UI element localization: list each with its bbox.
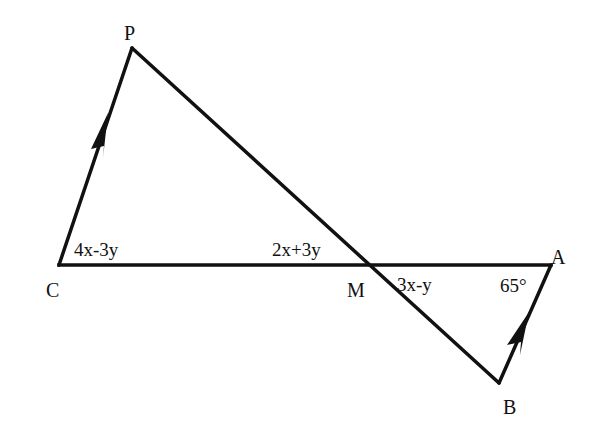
vertex-label-b: B [503,397,516,417]
angle-label-pmc: 2x+3y [272,240,321,259]
geometry-figure [0,0,597,433]
vertex-label-c: C [46,280,59,300]
parallel-arrow-icon-ba [507,312,529,355]
parallel-arrow-icon-cp [91,113,108,158]
segment-pb [132,48,499,383]
vertex-label-a: A [551,247,565,267]
angle-label-c: 4x-3y [74,240,118,259]
vertex-label-m: M [347,280,365,300]
angle-label-a: 65° [500,276,527,295]
segment-cp [59,48,132,265]
vertex-label-p: P [124,23,135,43]
angle-label-amb: 3x-y [397,275,432,294]
